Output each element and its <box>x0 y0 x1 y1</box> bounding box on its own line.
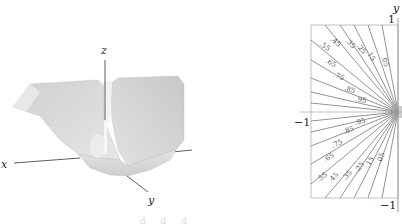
svg-text:.65: .65 <box>322 151 336 163</box>
z-axis-label: z <box>100 44 107 57</box>
contour-plot-canvas: .05 .15 .25 .35 .45 .55 .65 .75 .85 .95 … <box>270 0 402 224</box>
svg-text:.65: .65 <box>324 57 338 69</box>
contour-plot: .05 .15 .25 .35 .45 .55 .65 .75 .85 .95 … <box>270 0 402 224</box>
svg-text:.05: .05 <box>379 55 390 68</box>
tick-y-bottom: −1 <box>380 199 396 212</box>
surface-plot: z x y <box>0 0 270 224</box>
tick-y-top: 1 <box>388 13 395 26</box>
y-axis-line <box>127 176 148 192</box>
svg-text:.75: .75 <box>331 138 344 150</box>
x-axis-line <box>14 158 80 163</box>
svg-text:.55: .55 <box>315 170 329 183</box>
y-axis-label: y <box>147 194 155 207</box>
cropped-caption-fragment: d d d <box>140 216 193 224</box>
svg-text:.75: .75 <box>332 71 345 83</box>
svg-text:.85: .85 <box>342 125 355 136</box>
svg-text:.95: .95 <box>355 95 367 105</box>
surface-plot-canvas: z x y <box>0 0 270 224</box>
tick-x-left: −1 <box>294 116 310 129</box>
spike <box>104 120 107 154</box>
x-axis-label: x <box>1 158 8 171</box>
